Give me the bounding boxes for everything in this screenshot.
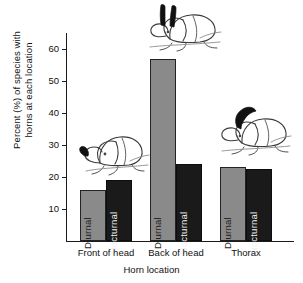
y-tick-30 <box>62 145 66 146</box>
bar-back-of-head-diurnal: Diurnal <box>150 59 176 241</box>
y-axis-label-line2: horns at each location <box>23 42 34 137</box>
x-tick-label-thorax: Thorax <box>196 247 296 258</box>
bar-thorax-diurnal: Diurnal <box>220 167 246 241</box>
y-tick-50 <box>62 81 66 82</box>
bar-front-of-head-nocturnal: Nocturnal <box>106 180 132 241</box>
y-tick-60 <box>62 49 66 50</box>
bar-chart-figure: Percent (%) of species withhorns at each… <box>0 0 303 283</box>
bar-thorax-nocturnal: Nocturnal <box>246 169 272 241</box>
bar-label-diurnal: Diurnal <box>82 217 93 249</box>
bar-label-diurnal: Diurnal <box>152 217 163 249</box>
bar-front-of-head-diurnal: Diurnal <box>80 190 106 241</box>
x-axis-label: Horn location <box>0 264 303 275</box>
beetle-back-of-head-illustration <box>136 3 222 53</box>
y-tick-label-50: 50 <box>25 75 59 86</box>
y-tick-40 <box>62 113 66 114</box>
y-tick-label-10: 10 <box>25 203 59 214</box>
y-tick-label-60: 60 <box>25 43 59 54</box>
beetle-front-of-head-illustration <box>74 125 150 177</box>
y-axis-label: Percent (%) of species withhorns at each… <box>11 0 35 185</box>
y-tick-label-40: 40 <box>25 107 59 118</box>
y-tick-20 <box>62 177 66 178</box>
y-tick-10 <box>62 209 66 210</box>
beetle-thorax-illustration <box>212 105 292 157</box>
y-tick-label-30: 30 <box>25 139 59 150</box>
y-tick-label-20: 20 <box>25 171 59 182</box>
y-axis-line <box>66 33 67 241</box>
plot-area: 60 50 40 30 20 10 Diurnal Nocturnal Fron… <box>66 33 294 241</box>
y-axis-label-line1: Percent (%) of species with <box>11 31 22 149</box>
bar-label-diurnal: Diurnal <box>222 217 233 249</box>
bar-back-of-head-nocturnal: Nocturnal <box>176 164 202 241</box>
